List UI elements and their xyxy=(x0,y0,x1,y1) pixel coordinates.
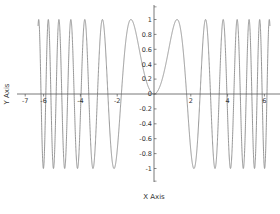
x-tick-label: -6 xyxy=(40,97,46,105)
y-tick-label: -0.6 xyxy=(139,135,152,143)
x-tick-label: -4 xyxy=(77,97,83,105)
y-tick-label: 0 xyxy=(148,90,152,98)
chart-canvas: -7-6-4-2246 10.80.60.40.20-0.2-0.4-0.6-0… xyxy=(0,0,280,214)
x-tick-label: 2 xyxy=(189,97,193,105)
y-axis-title: Y Axis xyxy=(3,83,11,105)
y-tick-label: -1 xyxy=(146,165,152,173)
y-tick-label: -0.4 xyxy=(139,120,152,128)
y-tick-label: 0.4 xyxy=(142,61,152,69)
x-tick-label: 6 xyxy=(262,97,266,105)
x-tick-label: -2 xyxy=(114,97,120,105)
y-tick-label: -0.8 xyxy=(139,150,152,158)
y-tick-label: 1 xyxy=(148,16,152,24)
y-tick-label: 0.8 xyxy=(142,31,152,39)
y-tick-label: 0.2 xyxy=(142,75,152,83)
y-tick-label: -0.2 xyxy=(139,105,152,113)
x-axis-ticks: -7-6-4-2246 xyxy=(22,94,267,105)
x-tick-label: -7 xyxy=(22,97,28,105)
x-axis-title: X Axis xyxy=(143,193,165,201)
x-tick-label: 4 xyxy=(226,97,230,105)
y-tick-label: 0.6 xyxy=(142,46,152,54)
